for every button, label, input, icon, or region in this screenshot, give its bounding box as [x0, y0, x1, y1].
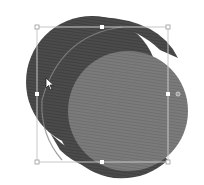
handle-top-middle[interactable] — [100, 25, 104, 29]
drawing-canvas[interactable] — [0, 0, 204, 185]
handle-bottom-middle[interactable] — [100, 160, 104, 164]
handle-middle-right[interactable] — [166, 92, 170, 96]
handle-bottom-right[interactable] — [166, 160, 170, 164]
cylinder-front-face — [68, 51, 188, 171]
handle-top-right[interactable] — [166, 25, 170, 29]
handle-bottom-left[interactable] — [35, 160, 39, 164]
handle-middle-left[interactable] — [35, 92, 39, 96]
rotation-handle-icon[interactable] — [176, 92, 180, 96]
handle-top-left[interactable] — [35, 25, 39, 29]
